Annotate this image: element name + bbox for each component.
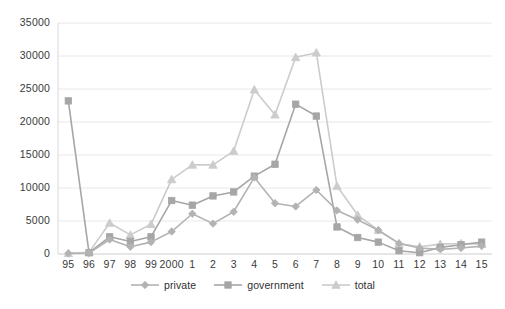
chart-legend: privategovernmenttotal [0, 279, 505, 291]
data-point-marker [65, 98, 71, 104]
data-point-marker [230, 208, 237, 215]
data-point-marker [126, 231, 134, 239]
legend-item-government[interactable]: government [213, 279, 303, 291]
series-government [65, 98, 485, 256]
data-point-marker [210, 193, 216, 199]
legend-marker-square-icon [213, 279, 243, 291]
data-point-marker [168, 197, 174, 203]
data-point-marker [230, 189, 236, 195]
y-tick-label: 20000 [0, 115, 50, 127]
data-point-marker [312, 49, 320, 57]
legend-item-private[interactable]: private [130, 279, 196, 291]
data-point-marker [354, 234, 360, 240]
legend-item-total[interactable]: total [321, 279, 375, 291]
data-point-marker [334, 224, 340, 230]
series-layer [64, 49, 486, 258]
legend-marker-diamond-icon [130, 279, 160, 291]
series-total [64, 49, 486, 257]
data-point-marker [189, 202, 195, 208]
data-point-marker [229, 147, 237, 155]
legend-label: private [164, 279, 196, 291]
data-point-marker [141, 281, 148, 288]
data-point-marker [272, 161, 278, 167]
x-tick-label: 15 [466, 258, 498, 270]
legend-label: government [247, 279, 303, 291]
y-tick-label: 10000 [0, 181, 50, 193]
legend-label: total [355, 279, 375, 291]
data-point-marker [225, 282, 231, 288]
axis-lines [58, 23, 492, 254]
data-point-marker [313, 113, 319, 119]
series-line [68, 53, 481, 254]
data-point-marker [167, 175, 175, 183]
y-tick-label: 15000 [0, 148, 50, 160]
data-point-marker [292, 101, 298, 107]
y-tick-label: 30000 [0, 49, 50, 61]
data-point-marker [105, 219, 113, 227]
y-tick-label: 5000 [0, 214, 50, 226]
y-tick-label: 35000 [0, 16, 50, 28]
data-point-marker [375, 239, 381, 245]
line-chart: 35000300002500020000150001000050000 9596… [0, 0, 505, 309]
gridlines [58, 23, 492, 254]
y-tick-label: 0 [0, 247, 50, 259]
data-point-marker [396, 248, 402, 254]
legend-marker-triangle-icon [321, 279, 351, 291]
data-point-marker [333, 182, 341, 190]
y-tick-label: 25000 [0, 82, 50, 94]
